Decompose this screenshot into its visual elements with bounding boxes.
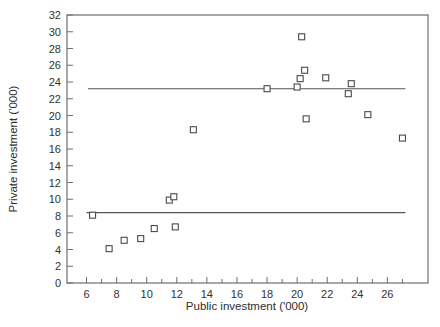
y-tick-label: 14 <box>49 160 61 172</box>
x-tick-label: 10 <box>141 288 153 300</box>
y-tick-label: 32 <box>49 9 61 21</box>
data-point <box>323 75 329 81</box>
y-tick-label: 2 <box>55 260 61 272</box>
x-tick-label: 12 <box>171 288 183 300</box>
data-point <box>345 91 351 97</box>
y-tick-label: 30 <box>49 26 61 38</box>
y-tick-label: 12 <box>49 177 61 189</box>
data-point <box>171 194 177 200</box>
data-point <box>138 236 144 242</box>
y-tick-label: 26 <box>49 59 61 71</box>
y-tick-label: 18 <box>49 126 61 138</box>
data-point <box>172 224 178 230</box>
y-tick-label: 8 <box>55 210 61 222</box>
y-tick-label: 10 <box>49 193 61 205</box>
x-tick-label: 18 <box>261 288 273 300</box>
y-tick-label: 16 <box>49 143 61 155</box>
data-point <box>365 112 371 118</box>
x-tick-label: 24 <box>351 288 363 300</box>
y-tick-label: 22 <box>49 93 61 105</box>
x-tick-label: 8 <box>114 288 120 300</box>
data-point <box>348 81 354 87</box>
data-point <box>264 86 270 92</box>
x-tick-label: 6 <box>83 288 89 300</box>
y-tick-label: 20 <box>49 110 61 122</box>
data-point <box>303 116 309 122</box>
data-point <box>121 237 127 243</box>
y-tick-label: 6 <box>55 227 61 239</box>
x-tick-label: 20 <box>291 288 303 300</box>
x-tick-label: 26 <box>381 288 393 300</box>
y-tick-label: 4 <box>55 244 61 256</box>
y-tick-label: 0 <box>55 277 61 289</box>
data-point <box>190 127 196 133</box>
x-tick-label: 14 <box>201 288 213 300</box>
x-tick-label: 16 <box>231 288 243 300</box>
data-point <box>106 246 112 252</box>
data-point <box>294 84 300 90</box>
y-axis-title: Private investment ('000) <box>7 86 19 213</box>
y-tick-label: 24 <box>49 76 61 88</box>
data-point <box>297 76 303 82</box>
y-tick-label: 28 <box>49 43 61 55</box>
x-tick-label: 22 <box>321 288 333 300</box>
data-point <box>299 34 305 40</box>
data-point <box>399 135 405 141</box>
data-point <box>90 212 96 218</box>
x-axis-title: Public investment ('000) <box>186 300 308 312</box>
data-point <box>151 226 157 232</box>
scatter-chart-figure: 0246810121416182022242628303268101214161… <box>0 0 440 327</box>
data-point <box>302 67 308 73</box>
plot-svg: 0246810121416182022242628303268101214161… <box>0 0 440 327</box>
